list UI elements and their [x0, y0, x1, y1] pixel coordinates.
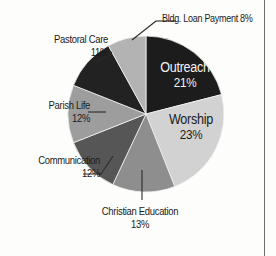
bldg-loan-payment-text: Bldg. Loan Payment 8%: [162, 12, 253, 24]
slice-label-parish-life: Parish Life 12%: [18, 99, 90, 124]
worship-name: Worship: [154, 111, 228, 127]
pie-chart-page: Bldg. Loan Payment 8% Pastoral Care 11% …: [0, 0, 276, 256]
page-margin-rule: [264, 0, 265, 256]
pie-chart: Bldg. Loan Payment 8% Pastoral Care 11% …: [0, 0, 264, 256]
slice-label-bldg-loan-payment: Bldg. Loan Payment 8%: [162, 12, 253, 25]
christian-education-name: Christian Education: [102, 205, 178, 217]
christian-education-percent: 13%: [92, 218, 188, 231]
outreach-percent: 21%: [146, 75, 223, 90]
slice-label-outreach: Outreach 21%: [146, 59, 223, 90]
slice-label-christian-education: Christian Education 13%: [92, 205, 188, 230]
outreach-name: Outreach: [146, 59, 223, 75]
slice-label-pastoral-care: Pastoral Care 11%: [36, 33, 108, 58]
slice-label-communication: Communication 12%: [14, 154, 100, 179]
parish-life-percent: 12%: [18, 112, 90, 125]
worship-percent: 23%: [154, 127, 228, 142]
parish-life-name: Parish Life: [49, 99, 90, 111]
pastoral-care-percent: 11%: [36, 46, 108, 59]
slice-label-worship: Worship 23%: [154, 111, 228, 142]
pastoral-care-name: Pastoral Care: [54, 33, 108, 45]
communication-percent: 12%: [14, 167, 100, 180]
communication-name: Communication: [38, 154, 100, 166]
